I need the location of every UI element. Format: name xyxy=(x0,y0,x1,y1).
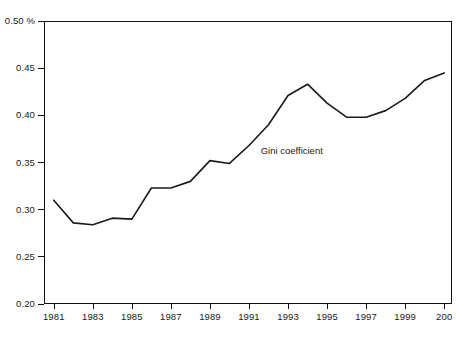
x-axis-tick-mark xyxy=(366,304,367,309)
x-axis-tick-label: 1981 xyxy=(43,311,65,323)
y-axis-tick-mark xyxy=(38,115,44,116)
x-axis-tick-label: 200 xyxy=(436,311,452,323)
x-axis-tick-mark xyxy=(327,304,328,309)
y-axis-unit-label: % xyxy=(24,15,35,26)
y-axis-tick-label: 0.50 % xyxy=(5,14,35,28)
y-axis-tick-mark xyxy=(38,209,44,210)
x-axis-tick-label: 1995 xyxy=(316,311,338,323)
x-axis-tick-label: 1989 xyxy=(199,311,221,323)
x-axis-tick-mark xyxy=(288,304,289,309)
x-axis-tick-label: 1985 xyxy=(121,311,143,323)
y-axis-tick: 0.35 xyxy=(0,156,44,170)
gini-coefficient-line-chart: 0.200.250.300.350.400.450.50 % 198119831… xyxy=(0,0,460,342)
x-axis-tick-mark xyxy=(54,304,55,309)
y-axis-tick: 0.30 xyxy=(0,203,44,217)
y-axis-tick-label: 0.30 xyxy=(16,203,35,217)
x-axis-tick-label: 1999 xyxy=(394,311,416,323)
y-axis-tick: 0.50 % xyxy=(0,14,44,28)
x-axis-tick-mark xyxy=(444,304,445,309)
x-axis-tick-mark xyxy=(171,304,172,309)
x-axis: 1981198319851987198919911993199519971999… xyxy=(0,304,460,342)
series-annotation-label: Gini coefficient xyxy=(261,145,323,157)
y-axis-tick-label: 0.45 xyxy=(16,61,35,75)
x-axis-tick-label: 1993 xyxy=(277,311,299,323)
y-axis-tick-mark xyxy=(38,162,44,163)
x-axis-tick-label: 1983 xyxy=(82,311,104,323)
y-axis-tick: 0.40 xyxy=(0,108,44,122)
y-axis-tick-mark xyxy=(38,68,44,69)
plot-area-frame xyxy=(44,21,452,304)
y-axis-tick-label: 0.35 xyxy=(16,156,35,170)
x-axis-tick-label: 1991 xyxy=(238,311,260,323)
y-axis-tick: 0.45 xyxy=(0,61,44,75)
x-axis-tick-mark xyxy=(93,304,94,309)
x-axis-tick-mark xyxy=(405,304,406,309)
x-axis-tick-label: 1987 xyxy=(160,311,182,323)
y-axis-tick-label: 0.25 xyxy=(16,250,35,264)
x-axis-tick-mark xyxy=(249,304,250,309)
y-axis-tick-mark xyxy=(38,21,44,22)
y-axis-tick-mark xyxy=(38,256,44,257)
x-axis-tick-mark xyxy=(210,304,211,309)
y-axis: 0.200.250.300.350.400.450.50 % xyxy=(0,0,44,342)
x-axis-tick-mark xyxy=(132,304,133,309)
y-axis-tick-label: 0.40 xyxy=(16,108,35,122)
y-axis-tick: 0.25 xyxy=(0,250,44,264)
x-axis-tick-label: 1997 xyxy=(355,311,377,323)
